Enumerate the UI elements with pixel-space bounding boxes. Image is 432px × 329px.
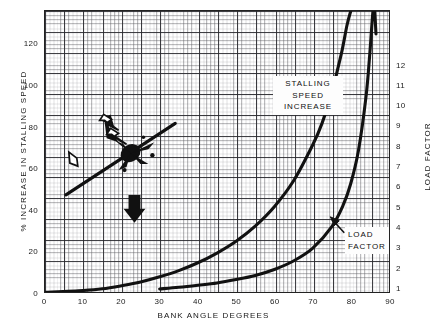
xtick-30: 30 — [155, 297, 165, 306]
callout-line-2: FACTOR — [348, 241, 390, 253]
rtick-8: 8 — [396, 141, 414, 150]
xtick-10: 10 — [78, 297, 88, 306]
rtick-7: 7 — [396, 162, 414, 171]
callout-line-1: STALLING — [276, 78, 340, 90]
curves-layer — [45, 11, 389, 292]
rtick-10: 10 — [396, 101, 414, 110]
callout-line-2: SPEED — [276, 90, 340, 102]
stalling-speed-increase-callout: STALLING SPEED INCREASE — [273, 76, 343, 115]
rtick-3: 3 — [396, 243, 414, 252]
y-axis-title: % INCREASE IN STALLING SPEED — [19, 82, 28, 232]
xtick-80: 80 — [347, 297, 357, 306]
banked-aircraft-diagram — [66, 114, 175, 222]
ytick-0: 0 — [12, 289, 38, 298]
y2-axis-title: LOAD FACTOR — [423, 82, 432, 232]
force-vector-arrows — [69, 114, 127, 166]
ytick-120: 120 — [12, 39, 38, 48]
ytick-20: 20 — [12, 247, 38, 256]
rtick-11: 11 — [396, 80, 414, 89]
xtick-40: 40 — [193, 297, 203, 306]
callout-line-1: LOAD — [348, 229, 390, 241]
rtick-2: 2 — [396, 263, 414, 272]
load-factor-callout: LOAD FACTOR — [345, 227, 390, 254]
rtick-1: 1 — [396, 283, 414, 292]
stalling-speed-increase-curve — [45, 11, 351, 292]
weight-force-arrow — [124, 195, 146, 223]
load-factor-curve — [160, 11, 376, 289]
x-axis-title: BANK ANGLE DEGREES — [158, 311, 270, 320]
xtick-60: 60 — [270, 297, 280, 306]
rtick-6: 6 — [396, 182, 414, 191]
rtick-9: 9 — [396, 121, 414, 130]
plot-area: STALLING SPEED INCREASE LOAD FACTOR — [44, 10, 390, 293]
xtick-90: 90 — [385, 297, 395, 306]
xtick-0: 0 — [42, 297, 47, 306]
rtick-5: 5 — [396, 202, 414, 211]
rtick-12: 12 — [396, 60, 414, 69]
xtick-20: 20 — [116, 297, 126, 306]
callout-line-3: INCREASE — [276, 101, 340, 113]
xtick-50: 50 — [231, 297, 241, 306]
rtick-4: 4 — [396, 222, 414, 231]
xtick-70: 70 — [308, 297, 318, 306]
